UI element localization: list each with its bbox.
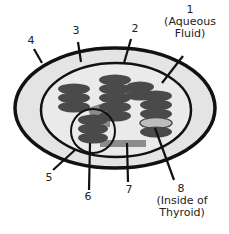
- label-1-text: (Aqueous Fluid): [160, 16, 220, 40]
- label-6: 6: [81, 191, 95, 203]
- cell-stack-center: [99, 75, 131, 122]
- cell-stack-circled: [78, 115, 108, 144]
- label-7: 7: [122, 184, 136, 196]
- cell-stack-left: [58, 84, 90, 113]
- label-8-text: (Inside of Thyroid): [150, 195, 214, 219]
- label-2: 2: [128, 23, 142, 35]
- label-5: 5: [42, 172, 56, 184]
- label-3: 3: [69, 25, 83, 37]
- label-4: 4: [24, 35, 38, 47]
